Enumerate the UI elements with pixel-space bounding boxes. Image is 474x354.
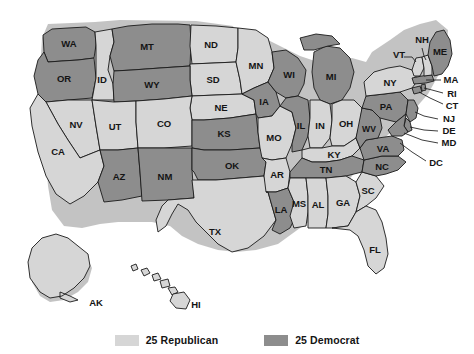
state-label-md: MD — [442, 137, 457, 148]
state-nm[interactable]: NM — [138, 148, 194, 201]
state-label-ut: UT — [109, 121, 122, 132]
state-label-ia: IA — [259, 96, 269, 107]
state-label-mn: MN — [249, 60, 264, 71]
state-label-de: DE — [442, 125, 455, 136]
state-wa[interactable]: WA — [43, 27, 96, 62]
state-label-ne: NE — [214, 102, 227, 113]
state-label-va: VA — [377, 143, 390, 154]
state-sd[interactable]: SD — [190, 62, 242, 96]
state-label-ky: KY — [327, 149, 341, 160]
state-ut[interactable]: UT — [92, 100, 138, 150]
state-label-oh: OH — [339, 118, 353, 129]
state-al[interactable]: AL — [306, 178, 328, 228]
state-label-mt: MT — [140, 41, 154, 52]
state-label-ca: CA — [51, 146, 65, 157]
state-co[interactable]: CO — [136, 96, 192, 148]
state-label-nj: NJ — [443, 113, 455, 124]
state-label-ri: RI — [447, 88, 457, 99]
state-label-ar: AR — [270, 169, 284, 180]
state-label-or: OR — [57, 73, 71, 84]
state-label-fl: FL — [369, 244, 381, 255]
state-ak[interactable]: AK — [28, 234, 103, 308]
state-label-wy: WY — [144, 79, 160, 90]
state-label-il: IL — [297, 120, 306, 131]
state-label-tx: TX — [209, 226, 222, 237]
state-label-al: AL — [312, 199, 325, 210]
state-label-in: IN — [315, 120, 325, 131]
state-label-me: ME — [433, 46, 447, 57]
state-label-mo: MO — [266, 132, 281, 143]
legend-swatch-democrat — [264, 335, 288, 346]
state-wy[interactable]: WY — [113, 66, 192, 102]
state-nd[interactable]: ND — [190, 25, 238, 64]
map-legend: 25 Republican 25 Democrat — [0, 326, 474, 354]
state-label-tn: TN — [320, 164, 333, 175]
state-sc[interactable]: SC — [356, 172, 384, 212]
state-label-pa: PA — [380, 101, 393, 112]
legend-item-republican[interactable]: 25 Republican — [115, 334, 219, 346]
state-az[interactable]: AZ — [98, 148, 142, 202]
state-label-ak: AK — [89, 297, 103, 308]
legend-item-democrat[interactable]: 25 Democrat — [264, 334, 359, 346]
legend-label-republican: 25 Republican — [146, 334, 219, 346]
state-label-wv: WV — [362, 124, 376, 134]
state-label-ga: GA — [336, 197, 350, 208]
state-label-ct: CT — [446, 100, 459, 111]
state-label-dc: DC — [429, 157, 443, 168]
state-label-vt: VT — [393, 49, 405, 60]
us-party-map-figure: WA OR ID MT ND SD WY — [0, 0, 474, 354]
us-states-map: WA OR ID MT ND SD WY — [0, 0, 474, 322]
legend-label-democrat: 25 Democrat — [295, 334, 359, 346]
state-hi[interactable]: HI — [131, 264, 201, 310]
state-label-sc: SC — [361, 185, 374, 196]
state-label-nd: ND — [204, 39, 218, 50]
state-label-sd: SD — [206, 74, 219, 85]
state-ok[interactable]: OK — [192, 148, 266, 180]
state-label-ok: OK — [225, 160, 239, 171]
state-label-ny: NY — [383, 77, 397, 88]
state-label-wa: WA — [61, 38, 76, 49]
state-label-id: ID — [97, 74, 107, 85]
state-mt[interactable]: MT — [110, 24, 191, 71]
state-label-nh: NH — [415, 34, 429, 45]
state-label-co: CO — [157, 118, 171, 129]
state-label-ks: KS — [217, 128, 230, 139]
state-ar[interactable]: AR — [262, 158, 290, 192]
state-label-nm: NM — [158, 171, 173, 182]
state-label-nc: NC — [375, 161, 389, 172]
legend-swatch-republican — [115, 335, 139, 346]
state-label-wi: WI — [283, 69, 295, 80]
state-label-la: LA — [275, 204, 288, 215]
state-label-ma: MA — [444, 74, 459, 85]
state-label-hi: HI — [191, 299, 201, 310]
state-label-nv: NV — [69, 119, 83, 130]
state-label-az: AZ — [113, 171, 126, 182]
state-label-mi: MI — [326, 71, 337, 82]
state-label-ms: MS — [292, 198, 306, 209]
state-ri[interactable] — [421, 84, 426, 91]
